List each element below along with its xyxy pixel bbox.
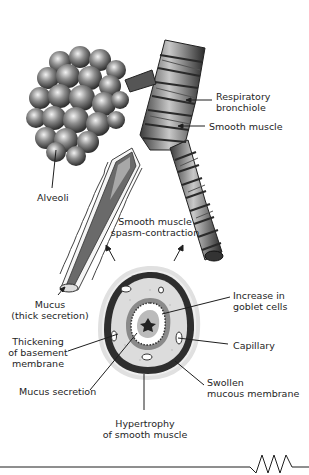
label-thickening-basement-membrane: Thickening of basement membrane — [8, 336, 68, 369]
label-smooth-muscle: Smooth muscle — [209, 121, 283, 132]
label-line: (thick secretion) — [8, 310, 92, 321]
label-alveoli: Alveoli — [37, 192, 69, 203]
label-line: Hypertrophy — [100, 418, 190, 429]
label-line: goblet cells — [233, 301, 287, 312]
label-line: spasm-contraction — [105, 227, 205, 238]
alveoli-cluster-drawing — [26, 46, 129, 166]
label-line: bronchiole — [216, 102, 270, 113]
label-line: Smooth muscle — [105, 216, 205, 227]
label-capillary: Capillary — [233, 340, 275, 351]
label-mucus-secretion: Mucus secretion — [19, 386, 96, 397]
label-line: Increase in — [233, 290, 287, 301]
label-line: Swollen — [207, 377, 299, 388]
label-hypertrophy-smooth-muscle: Hypertrophy of smooth muscle — [100, 418, 190, 440]
label-swollen-mucous-membrane: Swollen mucous membrane — [207, 377, 299, 399]
label-line: Thickening — [8, 336, 68, 347]
label-mucus-thick-secretion: Mucus (thick secretion) — [8, 299, 92, 321]
label-line: membrane — [8, 358, 68, 369]
label-smooth-muscle-spasm: Smooth muscle spasm-contraction — [105, 216, 205, 238]
label-line: mucous membrane — [207, 388, 299, 399]
label-line: Mucus — [8, 299, 92, 310]
label-line: of basement — [8, 347, 68, 358]
label-line: Respiratory — [216, 91, 270, 102]
label-respiratory-bronchiole: Respiratory bronchiole — [216, 91, 270, 113]
label-goblet-cells: Increase in goblet cells — [233, 290, 287, 312]
label-line: of smooth muscle — [100, 429, 190, 440]
bronchiole-cross-section-drawing — [100, 268, 198, 378]
